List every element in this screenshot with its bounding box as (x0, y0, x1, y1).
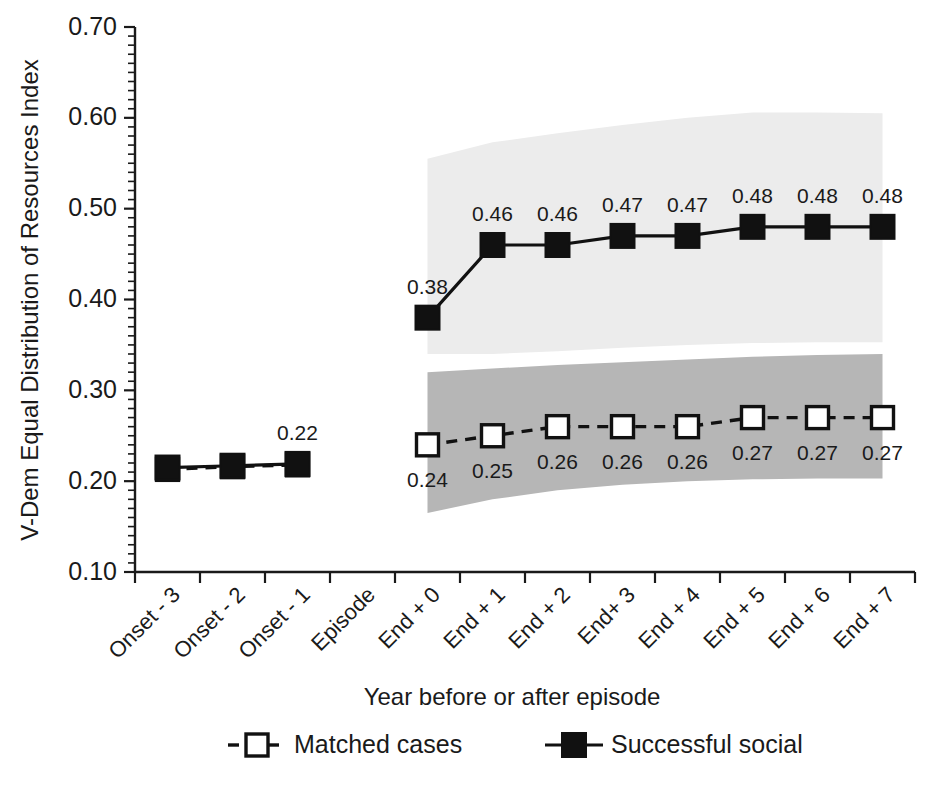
x-axis-major-ticks (135, 572, 915, 583)
x-tick-label: Onset - 1 (233, 582, 315, 664)
data-point-marker (482, 425, 504, 447)
data-point-label: 0.26 (537, 450, 578, 473)
data-point-marker (807, 407, 829, 429)
x-tick-label: End + 0 (373, 582, 445, 654)
y-tick-label: 0.70 (68, 12, 117, 40)
data-point-marker (286, 452, 310, 476)
x-axis-title: Year before or after episode (364, 683, 661, 710)
data-point-marker (416, 306, 440, 330)
x-tick-label: Episode (306, 582, 380, 656)
chart-legend: Matched casesSuccessful social (228, 730, 803, 758)
chart-figure: 0.100.200.300.400.500.600.70 Onset - 3On… (0, 0, 948, 797)
y-tick-label: 0.40 (68, 284, 117, 312)
data-point-label: 0.48 (732, 184, 773, 207)
legend-marker-filled (562, 733, 586, 757)
data-point-marker (806, 215, 830, 239)
x-tick-label: End+ 3 (573, 582, 640, 649)
y-tick-label: 0.30 (68, 375, 117, 403)
data-point-label: 0.22 (277, 421, 318, 444)
data-point-label: 0.47 (667, 193, 708, 216)
data-point-label: 0.46 (537, 202, 578, 225)
data-point-marker (677, 416, 699, 438)
y-axis-title: V-Dem Equal Distribution of Resources In… (16, 59, 43, 541)
x-axis-tick-labels: Onset - 3Onset - 2Onset - 1EpisodeEnd + … (103, 582, 900, 664)
data-point-label: 0.26 (602, 450, 643, 473)
data-point-marker (481, 233, 505, 257)
data-point-label: 0.46 (472, 202, 513, 225)
legend-item[interactable]: Matched cases (228, 730, 462, 758)
data-point-marker (417, 434, 439, 456)
data-point-marker (612, 416, 634, 438)
data-point-label: 0.38 (407, 275, 448, 298)
data-point-label: 0.48 (862, 184, 903, 207)
data-point-label: 0.27 (862, 441, 903, 464)
legend-item[interactable]: Successful social (545, 730, 803, 758)
data-point-marker (741, 215, 765, 239)
data-point-marker (742, 407, 764, 429)
x-tick-label: End + 2 (503, 582, 575, 654)
data-point-marker (221, 454, 245, 478)
y-tick-label: 0.10 (68, 557, 117, 585)
legend-marker-open (246, 734, 268, 756)
data-point-label: 0.25 (472, 459, 513, 482)
x-tick-label: End + 6 (763, 582, 835, 654)
y-tick-label: 0.60 (68, 102, 117, 130)
y-tick-label: 0.20 (68, 466, 117, 494)
chart-canvas: 0.100.200.300.400.500.600.70 Onset - 3On… (0, 0, 948, 797)
legend-label: Successful social (611, 730, 803, 758)
data-point-label: 0.48 (797, 184, 838, 207)
data-point-label: 0.26 (667, 450, 708, 473)
data-point-marker (156, 456, 180, 480)
data-point-marker (676, 224, 700, 248)
x-tick-label: End + 1 (438, 582, 510, 654)
legend-label: Matched cases (294, 730, 462, 758)
y-axis-tick-labels: 0.100.200.300.400.500.600.70 (68, 12, 117, 585)
data-point-label: 0.24 (407, 468, 448, 491)
x-tick-label: End + 7 (828, 582, 900, 654)
data-point-label: 0.47 (602, 193, 643, 216)
data-point-marker (871, 215, 895, 239)
data-point-label: 0.27 (797, 441, 838, 464)
data-point-marker (546, 233, 570, 257)
y-tick-label: 0.50 (68, 193, 117, 221)
data-point-marker (872, 407, 894, 429)
data-point-marker (547, 416, 569, 438)
data-point-marker (611, 224, 635, 248)
x-tick-label: End + 4 (633, 582, 705, 654)
x-tick-label: End + 5 (698, 582, 770, 654)
data-point-label: 0.27 (732, 441, 773, 464)
